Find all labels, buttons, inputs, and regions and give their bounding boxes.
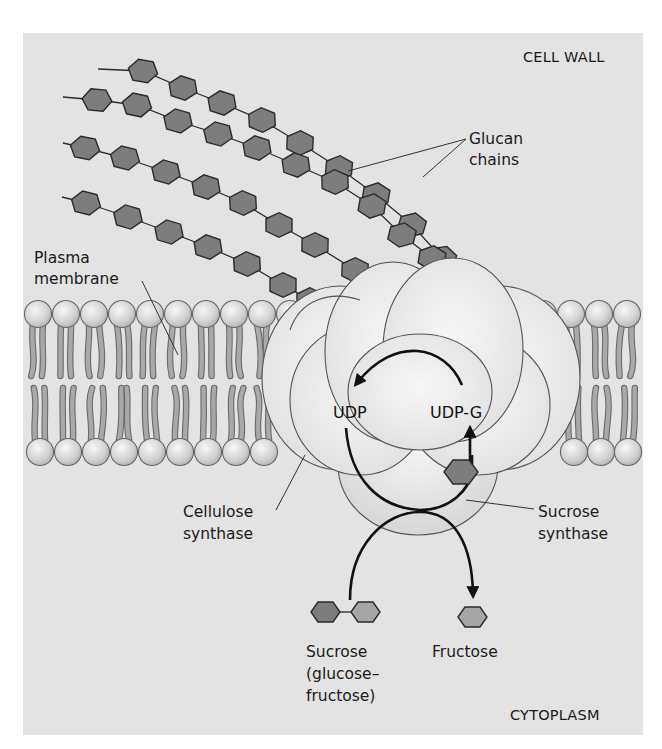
udp-label: UDP xyxy=(333,403,367,422)
lipid-tail xyxy=(606,388,609,440)
lipid-head xyxy=(167,439,194,466)
svg-text:Sucrose: Sucrose xyxy=(306,643,367,661)
lipid-tail xyxy=(185,388,186,440)
lipid-tail xyxy=(117,324,120,376)
glucose-unit-hexagon xyxy=(270,273,296,298)
lipid-head xyxy=(109,301,136,328)
svg-text:synthase: synthase xyxy=(183,525,253,543)
lipid-head xyxy=(27,439,54,466)
lipid-head xyxy=(81,301,108,328)
lipid-tail xyxy=(90,388,93,440)
lipid-tail xyxy=(145,388,147,440)
lipid-tail xyxy=(240,388,243,440)
lipid-tail xyxy=(211,324,212,376)
svg-text:synthase: synthase xyxy=(538,525,608,543)
lipid-tail xyxy=(143,324,145,376)
lipid-tail xyxy=(119,388,122,440)
lipid-tail xyxy=(594,324,596,376)
lipid-head xyxy=(53,301,80,328)
lipid-tail xyxy=(238,324,240,376)
glucose-unit-hexagon xyxy=(266,213,292,238)
svg-text:(glucose–: (glucose– xyxy=(306,665,379,683)
lipid-tail xyxy=(174,388,176,440)
clipped-caption-fragment xyxy=(0,0,662,10)
lipid-head xyxy=(221,301,248,328)
lipid-tail xyxy=(70,324,71,376)
lipid-tail xyxy=(257,388,260,440)
lipid-tail xyxy=(623,388,625,440)
lipid-head xyxy=(614,301,641,328)
glucose-unit-hexagon xyxy=(287,131,313,156)
lipid-head xyxy=(111,439,138,466)
lipid-tail xyxy=(229,324,230,376)
lipid-head xyxy=(588,439,615,466)
lipid-head xyxy=(251,439,278,466)
lipid-head xyxy=(586,301,613,328)
lipid-head xyxy=(223,439,250,466)
lipid-head xyxy=(165,301,192,328)
svg-text:Sucrose: Sucrose xyxy=(538,503,599,521)
lipid-tail xyxy=(231,388,233,440)
lipid-tail xyxy=(201,324,202,376)
lipid-tail xyxy=(34,388,36,440)
cell-wall-label: CELL WALL xyxy=(523,49,604,65)
lipid-tail xyxy=(633,388,635,440)
lipid-tail xyxy=(203,388,204,440)
lipid-tail xyxy=(60,324,61,376)
lipid-tail xyxy=(42,324,43,376)
lipid-tail xyxy=(213,388,214,440)
lipid-head xyxy=(137,301,164,328)
svg-text:fructose): fructose) xyxy=(306,687,375,705)
lipid-head xyxy=(139,439,166,466)
lipid-head xyxy=(249,301,276,328)
lipid-tail xyxy=(152,324,155,376)
lipid-tail xyxy=(72,388,74,440)
lipid-tail xyxy=(44,388,45,440)
lipid-head xyxy=(195,439,222,466)
lipid-tail xyxy=(127,388,129,440)
lipid-tail xyxy=(594,388,596,440)
svg-text:chains: chains xyxy=(469,151,519,169)
fructose-hexagon xyxy=(351,602,380,622)
svg-text:Plasma: Plasma xyxy=(34,249,90,267)
fructose-product-hexagon xyxy=(458,607,487,627)
fructose-label: Fructose xyxy=(432,643,498,661)
lipid-tail xyxy=(88,324,90,376)
lipid-tail xyxy=(31,324,33,376)
lipid-head xyxy=(193,301,220,328)
udp-g-label: UDP-G xyxy=(430,403,482,422)
lipid-tail xyxy=(127,324,129,376)
cellulose-synthesis-diagram: CELL WALL Glucan chains Plasma membrane xyxy=(0,0,662,749)
lipid-head xyxy=(55,439,82,466)
lipid-head xyxy=(561,439,588,466)
svg-text:membrane: membrane xyxy=(34,270,119,288)
cytoplasm-label: CYTOPLASM xyxy=(510,707,600,723)
lipid-tail xyxy=(154,388,157,440)
svg-text:Cellulose: Cellulose xyxy=(183,503,253,521)
lipid-tail xyxy=(604,324,606,376)
lipid-tail xyxy=(630,324,633,376)
glucose-hexagon xyxy=(311,602,340,622)
glucose-unit-hexagon xyxy=(302,233,328,258)
svg-text:Glucan: Glucan xyxy=(469,130,523,148)
lipid-tail xyxy=(182,324,184,376)
lipid-head xyxy=(25,301,52,328)
lipid-head xyxy=(615,439,642,466)
lipid-head xyxy=(83,439,110,466)
